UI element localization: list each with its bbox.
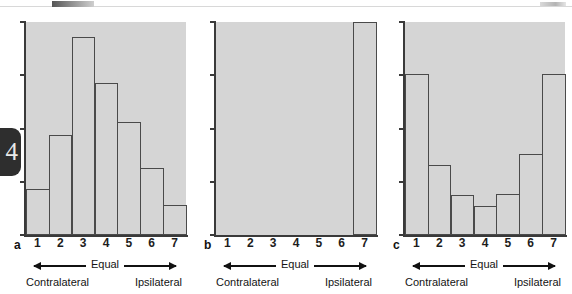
bar <box>95 83 119 235</box>
bar <box>474 206 498 235</box>
contralateral-label: Contralateral <box>26 276 89 288</box>
histogram-panel-b: 1234567bEqualContralateralIpsilateral <box>204 18 380 288</box>
plot-area-b <box>214 22 376 235</box>
x-axis-tick-label: 6 <box>331 236 353 250</box>
bar <box>163 205 187 235</box>
legend-axis-row: Equal <box>26 258 184 274</box>
arrow-left-icon <box>34 265 86 267</box>
x-axis-tick-label: 5 <box>497 236 519 250</box>
equal-label: Equal <box>465 258 503 270</box>
arrow-left-icon <box>413 265 465 267</box>
bar-group <box>216 22 376 235</box>
x-axis-tick-label: 7 <box>543 236 565 250</box>
contralateral-label: Contralateral <box>216 276 279 288</box>
bar <box>428 165 452 235</box>
x-axis-tick-label: 7 <box>164 236 186 250</box>
contralateral-label: Contralateral <box>405 276 468 288</box>
x-axis-tick-label: 3 <box>451 236 473 250</box>
panel-letter-a: a <box>14 238 21 252</box>
x-axis-tick-label: 4 <box>95 236 117 250</box>
x-axis-tick-label: 2 <box>49 236 71 250</box>
x-axis-tick-label: 5 <box>118 236 140 250</box>
x-axis-tick-label: 7 <box>354 236 376 250</box>
histogram-panel-c: 1234567cEqualContralateralIpsilateral <box>393 18 569 288</box>
ipsilateral-label: Ipsilateral <box>325 276 372 288</box>
histogram-panel-a: 1234567aEqualContralateralIpsilateral <box>14 18 190 288</box>
bar <box>519 154 543 235</box>
x-axis-tick-label: 4 <box>474 236 496 250</box>
x-axis-tick-label: 4 <box>285 236 307 250</box>
x-axis-tick-label: 1 <box>216 236 238 250</box>
legend-side-row: ContralateralIpsilateral <box>216 276 374 292</box>
bar <box>72 37 96 235</box>
arrow-left-icon <box>224 265 276 267</box>
plot-area-a <box>24 22 186 235</box>
panel-legend: EqualContralateralIpsilateral <box>26 258 184 292</box>
bar <box>451 195 475 235</box>
bar <box>542 74 566 235</box>
x-axis-tick-label: 6 <box>520 236 542 250</box>
ipsilateral-label: Ipsilateral <box>514 276 561 288</box>
equal-label: Equal <box>86 258 124 270</box>
legend-axis-row: Equal <box>405 258 563 274</box>
legend-side-row: ContralateralIpsilateral <box>26 276 184 292</box>
scan-smudge-right <box>540 2 566 6</box>
legend-side-row: ContralateralIpsilateral <box>405 276 563 292</box>
bar <box>353 22 377 235</box>
x-axis-labels: 1234567 <box>405 236 565 252</box>
scan-smudge-left <box>52 1 94 7</box>
x-axis-tick-label: 1 <box>405 236 427 250</box>
legend-axis-row: Equal <box>216 258 374 274</box>
bar <box>26 189 50 235</box>
x-axis-labels: 1234567 <box>26 236 186 252</box>
x-axis-tick-label: 3 <box>262 236 284 250</box>
x-axis-tick-label: 6 <box>141 236 163 250</box>
bar <box>405 74 429 235</box>
x-axis-tick-label: 1 <box>26 236 48 250</box>
panel-letter-c: c <box>393 238 400 252</box>
bar-group <box>405 22 565 235</box>
arrow-right-icon <box>503 265 555 267</box>
x-axis-tick-label: 3 <box>72 236 94 250</box>
panel-legend: EqualContralateralIpsilateral <box>216 258 374 292</box>
x-axis-labels: 1234567 <box>216 236 376 252</box>
ipsilateral-label: Ipsilateral <box>135 276 182 288</box>
bar <box>117 122 141 235</box>
x-axis-tick-label: 5 <box>308 236 330 250</box>
x-axis-tick-label: 2 <box>428 236 450 250</box>
bar-group <box>26 22 186 235</box>
scan-artifact-strip <box>0 0 572 10</box>
bar <box>140 168 164 235</box>
arrow-right-icon <box>314 265 366 267</box>
x-axis-tick-label: 2 <box>239 236 261 250</box>
bar <box>49 135 73 235</box>
arrow-right-icon <box>124 265 176 267</box>
equal-label: Equal <box>276 258 314 270</box>
panel-letter-b: b <box>204 238 211 252</box>
plot-area-c <box>403 22 565 235</box>
bar <box>496 194 520 235</box>
panel-legend: EqualContralateralIpsilateral <box>405 258 563 292</box>
